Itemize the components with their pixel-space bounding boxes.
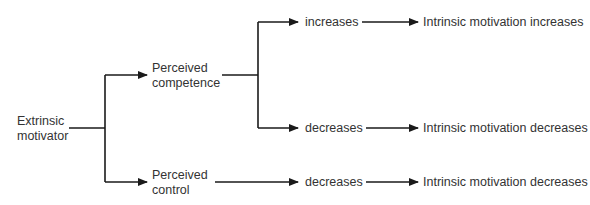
node-outcome-decrease-2: Intrinsic motivation decreases <box>423 175 588 190</box>
extrinsic-line2: motivator <box>17 129 68 144</box>
node-extrinsic-motivator: Extrinsic motivator <box>17 114 68 144</box>
node-competence-decreases: decreases <box>305 121 363 136</box>
node-perceived-control: Perceived control <box>152 168 208 198</box>
extrinsic-line1: Extrinsic <box>17 114 68 129</box>
competence-line2: competence <box>152 76 220 91</box>
control-line1: Perceived <box>152 168 208 183</box>
node-outcome-increase: Intrinsic motivation increases <box>423 15 583 30</box>
node-outcome-decrease-1: Intrinsic motivation decreases <box>423 121 588 136</box>
node-control-decreases: decreases <box>305 175 363 190</box>
node-perceived-competence: Perceived competence <box>152 61 220 91</box>
node-competence-increases: increases <box>305 15 359 30</box>
competence-line1: Perceived <box>152 61 220 76</box>
control-line2: control <box>152 183 208 198</box>
